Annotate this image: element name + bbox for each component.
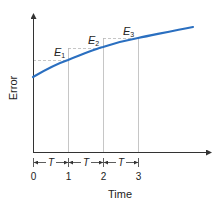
interval-label-1: T bbox=[48, 157, 55, 168]
tick-label-3: 3 bbox=[136, 171, 142, 182]
y-axis-label: Error bbox=[7, 75, 19, 100]
tick-label-1: 1 bbox=[66, 171, 72, 182]
label-e2: E2 bbox=[88, 34, 99, 47]
tick-label-0: 0 bbox=[31, 171, 37, 182]
interval-label-3: T bbox=[118, 157, 125, 168]
tick-label-2: 2 bbox=[101, 171, 107, 182]
label-e1: E1 bbox=[54, 46, 65, 59]
label-e3: E3 bbox=[123, 25, 134, 38]
x-axis-label: Time bbox=[108, 188, 132, 200]
error-time-diagram: E1 E2 E3 Error T T T 0 1 2 3 Time bbox=[0, 0, 224, 208]
interval-label-2: T bbox=[83, 157, 90, 168]
